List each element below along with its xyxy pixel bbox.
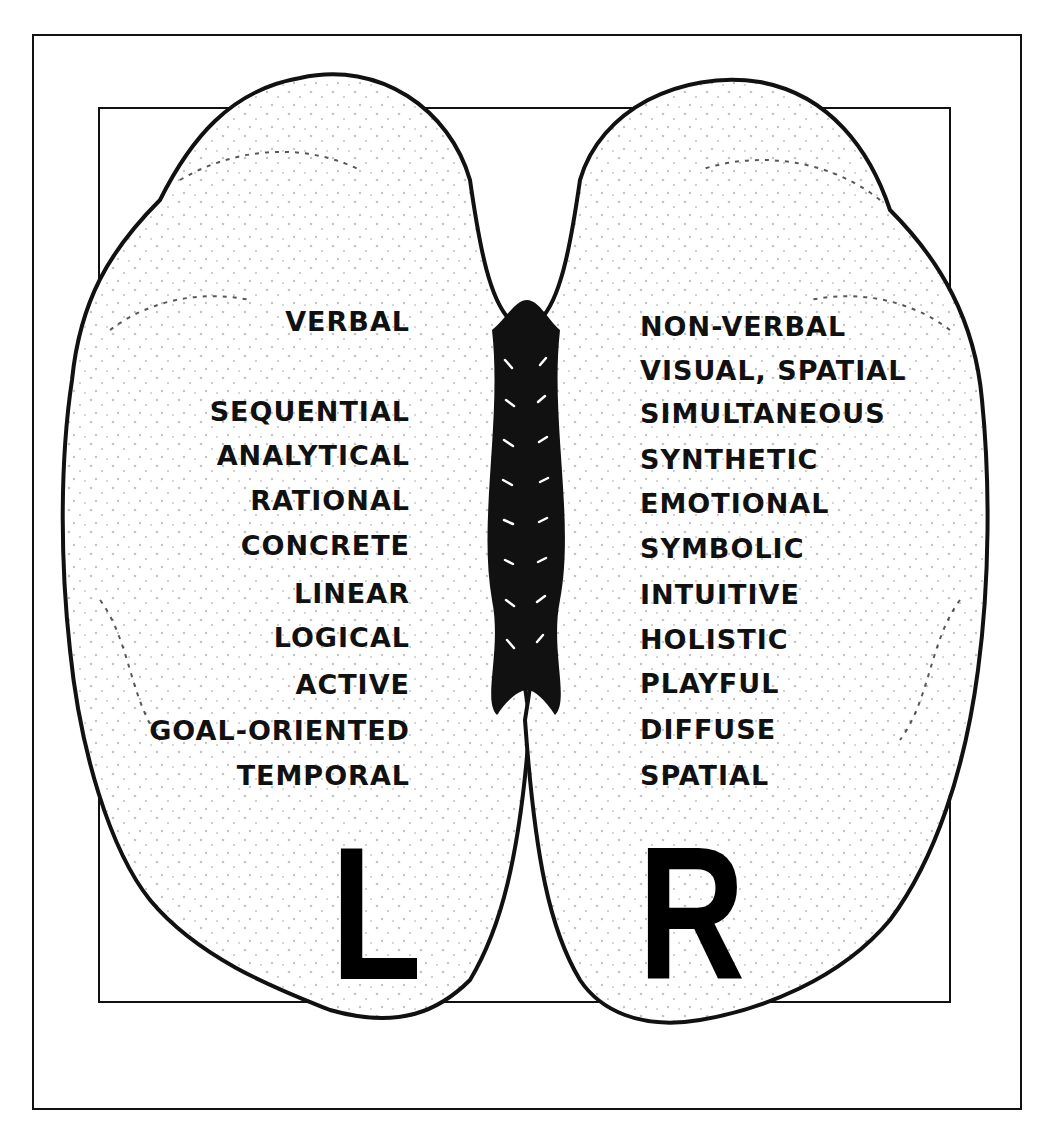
trait-label: DIFFUSE — [640, 716, 776, 743]
trait-label: NON-VERBAL — [640, 313, 846, 340]
brain-illustration — [0, 0, 1049, 1140]
right-hemisphere-letter: R — [638, 818, 745, 1008]
trait-label: ANALYTICAL — [217, 442, 410, 469]
trait-label: SEQUENTIAL — [210, 398, 410, 425]
trait-label: SIMULTANEOUS — [640, 400, 886, 427]
trait-label: LOGICAL — [274, 624, 410, 651]
trait-label: SYNTHETIC — [640, 446, 818, 473]
trait-label: HOLISTIC — [640, 626, 789, 653]
trait-label: PLAYFUL — [640, 670, 779, 697]
trait-label: SPATIAL — [640, 762, 769, 789]
left-hemisphere-letter: L — [331, 818, 422, 1008]
trait-label: CONCRETE — [241, 532, 410, 559]
trait-label: SYMBOLIC — [640, 535, 804, 562]
trait-label: INTUITIVE — [640, 581, 800, 608]
trait-label: LINEAR — [294, 580, 410, 607]
trait-label: RATIONAL — [250, 487, 410, 514]
trait-label: ACTIVE — [295, 671, 410, 698]
trait-label: VISUAL, SPATIAL — [640, 357, 906, 384]
trait-label: GOAL-ORIENTED — [149, 717, 410, 744]
trait-label: TEMPORAL — [237, 762, 410, 789]
trait-label: VERBAL — [285, 308, 410, 335]
corpus-callosum — [487, 300, 564, 715]
trait-label: EMOTIONAL — [640, 490, 829, 517]
